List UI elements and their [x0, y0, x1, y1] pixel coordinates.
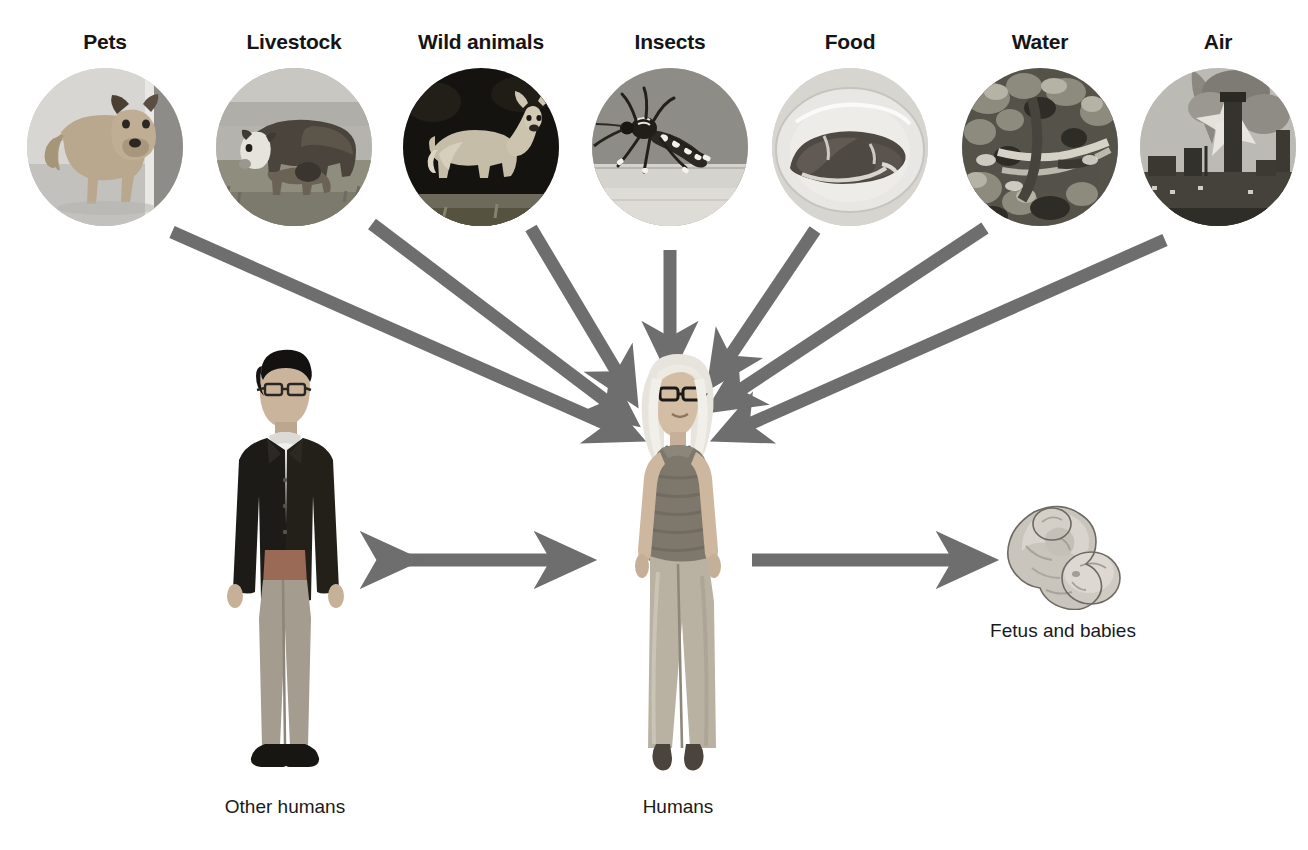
exposure-routes-diagram: Pets — [0, 0, 1308, 850]
cow-photo-circle — [216, 68, 372, 226]
mosquito-photo-circle — [592, 68, 748, 226]
source-label-water: Water — [1012, 30, 1069, 54]
deer-photo-circle — [403, 68, 559, 226]
water-photo-circle — [962, 68, 1118, 226]
smokestack-photo-circle — [1140, 68, 1296, 226]
figure-caption-other-humans: Other humans — [225, 796, 345, 818]
arrow-air-to-humans — [736, 240, 1165, 430]
source-label-pets: Pets — [83, 30, 127, 54]
figure-caption-humans: Humans — [643, 796, 714, 818]
figure-fetus-and-babies[interactable]: Fetus and babies — [988, 498, 1138, 610]
source-label-wild-animals: Wild animals — [418, 30, 544, 54]
fetus-illustration — [988, 498, 1138, 610]
woman-standing-photo — [600, 352, 756, 792]
man-standing-photo — [205, 348, 365, 790]
figure-humans[interactable]: Humans — [600, 352, 756, 792]
source-label-air: Air — [1204, 30, 1233, 54]
source-label-insects: Insects — [635, 30, 706, 54]
source-label-livestock: Livestock — [246, 30, 341, 54]
meat-photo-circle — [772, 68, 928, 226]
figure-caption-fetus-and-babies: Fetus and babies — [990, 620, 1136, 642]
dog-photo-circle — [27, 68, 183, 226]
figure-other-humans[interactable]: Other humans — [205, 348, 365, 790]
source-label-food: Food — [825, 30, 876, 54]
